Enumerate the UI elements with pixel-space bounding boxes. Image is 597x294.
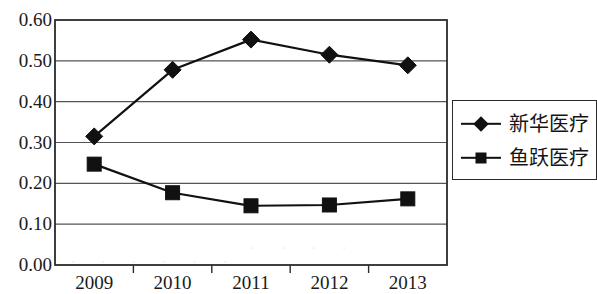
legend-label-series-1: 新华医疗 [509, 114, 589, 134]
legend-entry-series-1[interactable]: 新华医疗 [459, 107, 596, 141]
x-tick-label: 2013 [389, 272, 427, 294]
x-axis-tick-labels: 20092010201120122013 [0, 268, 591, 294]
data-point-marker [401, 192, 415, 206]
x-tick-label: 2012 [310, 272, 348, 294]
square-marker-icon [459, 148, 503, 168]
legend-entry-series-2[interactable]: 鱼跃医疗 [459, 141, 596, 175]
diamond-marker-icon [459, 114, 503, 134]
data-point-marker [87, 157, 101, 171]
data-point-marker [166, 186, 180, 200]
x-tick-label: 2010 [154, 272, 192, 294]
x-tick-label: 2009 [75, 272, 113, 294]
data-point-marker [243, 31, 260, 48]
chart-legend: 新华医疗 鱼跃医疗 [452, 100, 597, 180]
data-point-marker [399, 57, 416, 74]
data-point-marker [244, 199, 258, 213]
data-point-marker [322, 198, 336, 212]
x-tick-label: 2011 [232, 272, 269, 294]
data-series-group [86, 31, 417, 213]
legend-label-series-2: 鱼跃医疗 [509, 148, 589, 168]
